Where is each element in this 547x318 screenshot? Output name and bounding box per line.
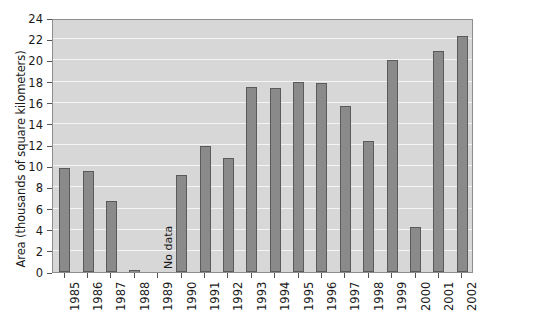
x-tick-label: 1989 (161, 282, 175, 311)
x-tick-mark (461, 273, 462, 278)
x-tick-label: 1988 (138, 282, 152, 311)
x-tick-label: 1996 (325, 282, 339, 311)
y-tick: 0 (0, 266, 52, 280)
y-tick-label: 6 (36, 203, 47, 217)
bar-1999 (387, 60, 398, 272)
x-tick-label: 2002 (465, 282, 479, 311)
y-tick-label: 14 (28, 118, 47, 132)
x-tick-mark (415, 273, 416, 278)
x-tick-label: 1997 (348, 282, 362, 311)
bar-1986 (83, 171, 94, 272)
x-tick-label: 2000 (419, 282, 433, 311)
y-axis-ticks: 024681012141618202224 (0, 0, 52, 318)
x-tick-label: 1990 (185, 282, 199, 311)
bar-1985 (59, 168, 70, 272)
x-tick-label: 2001 (442, 282, 456, 311)
x-tick-mark (181, 273, 182, 278)
y-tick-label: 0 (36, 266, 47, 280)
x-tick-label: 1986 (91, 282, 105, 311)
y-tick-label: 2 (36, 245, 47, 259)
y-tick: 14 (0, 118, 52, 132)
x-tick-mark (391, 273, 392, 278)
bar-2002 (457, 36, 468, 272)
y-tick: 22 (0, 33, 52, 47)
bar-1990 (176, 175, 187, 272)
bar-1997 (340, 106, 351, 272)
y-tick: 20 (0, 54, 52, 68)
y-tick: 18 (0, 76, 52, 90)
x-tick-mark (274, 273, 275, 278)
y-tick: 8 (0, 181, 52, 195)
bar-2000 (410, 227, 421, 273)
bar-1988 (129, 270, 140, 272)
bar-1993 (246, 87, 257, 272)
bars-layer (53, 20, 472, 272)
x-tick-mark (438, 273, 439, 278)
x-tick-mark (87, 273, 88, 278)
x-tick-label: 1995 (302, 282, 316, 311)
x-tick-mark (64, 273, 65, 278)
x-tick-mark (110, 273, 111, 278)
x-tick-mark (298, 273, 299, 278)
y-tick-label: 8 (36, 181, 47, 195)
y-tick-label: 16 (28, 97, 47, 111)
y-tick: 4 (0, 224, 52, 238)
y-tick-label: 10 (28, 160, 47, 174)
plot-area (52, 19, 473, 273)
x-axis-ticks: 1985198619871988198919901991199219931994… (52, 273, 473, 318)
bar-1998 (363, 141, 374, 272)
y-tick-label: 4 (36, 224, 47, 238)
y-tick: 24 (0, 12, 52, 26)
x-tick-label: 1999 (395, 282, 409, 311)
x-tick-mark (368, 273, 369, 278)
bar-1992 (223, 158, 234, 272)
x-tick-mark (251, 273, 252, 278)
y-tick: 16 (0, 97, 52, 111)
y-tick: 10 (0, 160, 52, 174)
y-tick-label: 24 (28, 12, 47, 26)
y-tick-label: 12 (28, 139, 47, 153)
x-tick-mark (157, 273, 158, 278)
y-tick-label: 18 (28, 76, 47, 90)
x-tick-label: 1991 (208, 282, 222, 311)
x-tick-label: 1992 (231, 282, 245, 311)
bar-1987 (106, 201, 117, 272)
x-tick-label: 1987 (114, 282, 128, 311)
bar-1996 (316, 83, 327, 272)
bar-2001 (433, 51, 444, 272)
bar-1991 (200, 146, 211, 272)
x-tick-mark (344, 273, 345, 278)
x-tick-mark (204, 273, 205, 278)
x-tick-mark (134, 273, 135, 278)
bar-chart: Area (thousands of square kilometers) 02… (0, 0, 547, 318)
bar-1995 (293, 82, 304, 273)
no-data-annotation: No data (162, 226, 175, 269)
x-tick-label: 1985 (68, 282, 82, 311)
bar-1994 (270, 88, 281, 272)
y-tick-label: 20 (28, 54, 47, 68)
x-tick-mark (321, 273, 322, 278)
y-tick: 2 (0, 245, 52, 259)
x-tick-label: 1993 (255, 282, 269, 311)
x-tick-label: 1998 (372, 282, 386, 311)
x-tick-label: 1994 (278, 282, 292, 311)
x-tick-mark (227, 273, 228, 278)
y-tick-label: 22 (28, 33, 47, 47)
y-tick: 6 (0, 203, 52, 217)
y-tick: 12 (0, 139, 52, 153)
